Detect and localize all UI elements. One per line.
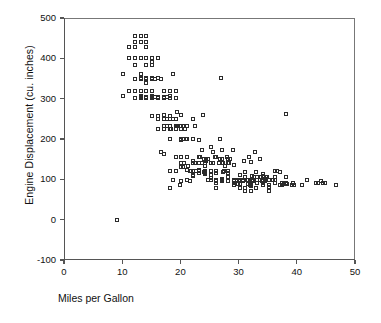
data-point — [115, 218, 119, 222]
data-point — [191, 137, 195, 141]
data-point — [218, 137, 222, 141]
y-axis-tick — [60, 219, 64, 220]
data-point — [150, 60, 154, 64]
data-point — [211, 161, 215, 165]
data-point — [185, 155, 189, 159]
data-point — [305, 178, 309, 182]
data-point — [174, 96, 178, 100]
y-axis-tick — [60, 58, 64, 59]
data-point — [144, 34, 148, 38]
data-point — [285, 182, 289, 186]
data-point — [206, 157, 210, 161]
data-point — [169, 127, 173, 131]
y-axis-tick-label: 0 — [22, 215, 56, 225]
data-point — [284, 112, 288, 116]
data-point — [232, 183, 236, 187]
data-point — [253, 150, 257, 154]
data-point — [156, 127, 160, 131]
x-axis-tick — [354, 260, 355, 264]
data-point — [156, 117, 160, 121]
data-point — [278, 170, 282, 174]
y-axis-tick-label: 100 — [22, 174, 56, 184]
data-point — [133, 63, 137, 67]
x-axis-tick-label: 30 — [224, 267, 254, 277]
data-point — [133, 77, 137, 81]
data-point — [178, 183, 182, 187]
data-point — [144, 45, 148, 49]
x-axis-tick — [63, 260, 64, 264]
data-point — [211, 150, 215, 154]
y-axis-tick — [60, 98, 64, 99]
x-axis-tick — [180, 260, 181, 264]
data-point — [300, 183, 304, 187]
data-point — [168, 96, 172, 100]
data-point — [214, 181, 218, 185]
data-point — [139, 34, 143, 38]
data-point — [150, 56, 154, 60]
data-point — [334, 183, 338, 187]
data-point — [139, 94, 143, 98]
data-point — [171, 72, 175, 76]
data-point — [174, 117, 178, 121]
data-point — [171, 178, 175, 182]
x-axis-tick — [122, 260, 123, 264]
y-axis-tick-label: 500 — [22, 13, 56, 23]
data-point — [201, 113, 205, 117]
data-point — [197, 138, 201, 142]
data-point — [232, 163, 236, 167]
data-point — [200, 148, 204, 152]
data-point — [209, 178, 213, 182]
data-point — [267, 185, 271, 189]
x-axis-tick — [238, 260, 239, 264]
data-point — [243, 186, 247, 190]
y-axis-tick — [60, 138, 64, 139]
data-point — [209, 145, 213, 149]
data-point — [284, 175, 288, 179]
y-axis-tick-label: -100 — [22, 255, 56, 265]
x-axis-tick-label: 40 — [282, 267, 312, 277]
data-point — [144, 56, 148, 60]
y-axis-tick — [60, 17, 64, 18]
data-point — [162, 152, 166, 156]
y-axis-tick-label: 300 — [22, 94, 56, 104]
data-point — [220, 178, 224, 182]
data-point — [159, 77, 163, 81]
data-point — [228, 157, 232, 161]
data-point — [139, 40, 143, 44]
data-point — [179, 155, 183, 159]
data-point — [226, 169, 230, 173]
data-point — [133, 34, 137, 38]
data-point — [133, 89, 137, 93]
data-point — [144, 63, 148, 67]
data-point — [185, 124, 189, 128]
data-point — [174, 169, 178, 173]
data-point — [219, 76, 223, 80]
data-point — [121, 94, 125, 98]
data-point — [254, 186, 258, 190]
data-point — [220, 148, 224, 152]
data-point — [174, 155, 178, 159]
x-axis-title: Miles per Gallon — [58, 292, 134, 304]
scatter-chart: Engine Displacement (cu. inches) 5004003… — [0, 0, 381, 323]
data-point — [249, 189, 253, 193]
x-axis-tick-label: 0 — [49, 267, 79, 277]
data-point — [179, 179, 183, 183]
x-axis-tick — [296, 260, 297, 264]
data-point — [144, 81, 148, 85]
data-point — [191, 173, 195, 177]
data-point — [174, 89, 178, 93]
data-point — [133, 45, 137, 49]
data-point — [127, 56, 131, 60]
data-point — [323, 181, 327, 185]
data-point — [168, 89, 172, 93]
data-point — [121, 72, 125, 76]
data-point — [258, 157, 262, 161]
data-point — [156, 56, 160, 60]
data-point — [231, 148, 235, 152]
data-point — [226, 179, 230, 183]
data-point — [150, 89, 154, 93]
data-point — [139, 56, 143, 60]
data-point — [193, 124, 197, 128]
y-axis-title: Engine Displacement (cu. inches) — [22, 0, 36, 250]
y-axis-tick — [60, 179, 64, 180]
